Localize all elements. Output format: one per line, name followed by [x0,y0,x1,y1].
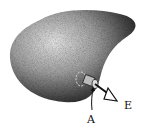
point-a-pointer [91,86,95,110]
field-vector-arrow [95,84,117,101]
label-a: A [87,114,95,125]
diagram-canvas [0,0,146,133]
conductor-body [10,10,136,102]
label-e: E [124,100,132,111]
